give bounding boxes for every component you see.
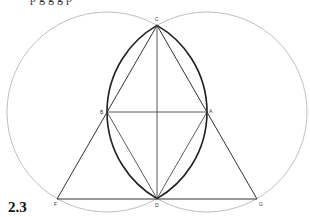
segment-bd	[107, 112, 157, 199]
segment-ad	[157, 112, 207, 199]
label-d: D	[155, 202, 159, 208]
label-b: B	[100, 109, 104, 115]
vesica-piscis-diagram: C B A F D G	[0, 0, 310, 217]
label-g: G	[259, 201, 263, 207]
label-c: C	[155, 16, 159, 22]
figure-number: 2.3	[8, 199, 27, 216]
label-f: F	[54, 201, 57, 207]
label-a: A	[209, 108, 213, 114]
